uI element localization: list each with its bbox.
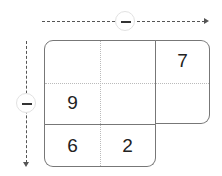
minus-icon [22, 103, 32, 105]
grid-cell[interactable]: 7 [155, 51, 210, 71]
grid-cell[interactable]: 9 [45, 93, 100, 113]
remove-row-button[interactable] [16, 93, 36, 113]
grid-cell[interactable]: 2 [100, 136, 155, 156]
minus-icon [121, 21, 131, 23]
arrowhead-right-icon [204, 18, 209, 24]
remove-column-button[interactable] [115, 11, 135, 31]
grid-cell[interactable]: 6 [45, 136, 100, 156]
arrowhead-down-icon [23, 162, 29, 167]
grid-divider [45, 83, 209, 84]
